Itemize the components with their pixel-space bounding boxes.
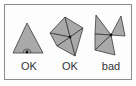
- vertex-dot: [26, 51, 29, 54]
- figure-1-triangle: [13, 23, 43, 53]
- vertex-dot: [69, 36, 72, 39]
- figure-3-bad-config: [95, 15, 125, 55]
- figure-2-fan: [50, 17, 83, 56]
- figure-3-label: bad: [96, 60, 126, 72]
- figure-2-label: OK: [55, 60, 85, 72]
- triangle: [111, 16, 125, 36]
- triangle: [13, 23, 43, 53]
- triangle: [95, 15, 111, 35]
- figure-1-label: OK: [14, 60, 44, 72]
- diagram-canvas: [0, 0, 136, 86]
- vertex-dot: [110, 34, 113, 37]
